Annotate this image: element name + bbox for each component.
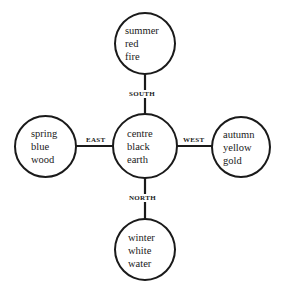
node-spring-text: spring blue wood [31, 127, 57, 166]
node-centre-position: centre [127, 127, 153, 140]
node-summer-season: summer [125, 24, 159, 37]
label-south: SOUTH [128, 90, 156, 98]
node-autumn-text: autumn yellow gold [223, 128, 255, 167]
label-west: WEST [182, 136, 205, 144]
node-centre-color: black [127, 140, 153, 153]
node-summer-text: summer red fire [125, 24, 159, 63]
node-autumn-color: yellow [223, 141, 255, 154]
node-autumn-element: gold [223, 154, 255, 167]
node-centre-element: earth [127, 153, 153, 166]
node-spring-color: blue [31, 140, 57, 153]
node-winter-season: winter [128, 231, 155, 244]
node-spring-element: wood [31, 153, 57, 166]
node-centre-text: centre black earth [127, 127, 153, 166]
node-spring-season: spring [31, 127, 57, 140]
node-winter-text: winter white water [128, 231, 155, 270]
node-autumn-season: autumn [223, 128, 255, 141]
node-winter-color: white [128, 244, 155, 257]
label-east: EAST [85, 136, 107, 144]
node-summer-element: fire [125, 50, 159, 63]
node-winter-element: water [128, 257, 155, 270]
label-north: NORTH [128, 194, 157, 202]
node-summer-color: red [125, 37, 159, 50]
